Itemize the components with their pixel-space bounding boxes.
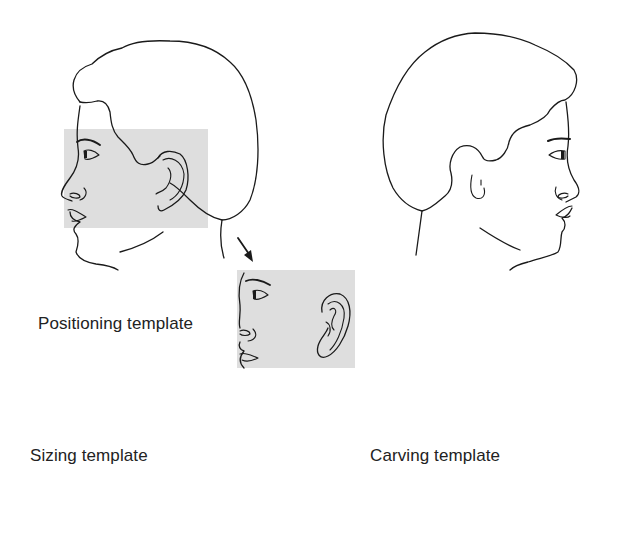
- left-head-profile: [61, 41, 258, 270]
- positioning-template-label: Positioning template: [38, 314, 193, 334]
- left-eye-pupil: [84, 151, 87, 158]
- arrow-head: [244, 250, 253, 262]
- right-jawline: [480, 228, 520, 250]
- left-neck-back: [221, 220, 224, 258]
- right-eye-pupil: [561, 151, 564, 159]
- positioning-template: [237, 270, 355, 368]
- right-face-profile: [510, 102, 579, 270]
- right-eyebrow: [548, 138, 570, 141]
- right-neck-back: [416, 211, 422, 255]
- right-head-profile: [383, 33, 579, 270]
- positioning-template-panel: [237, 270, 355, 368]
- left-head-shaded-region: [64, 129, 208, 228]
- sizing-template-label: Sizing template: [30, 446, 148, 466]
- arrow-to-positioning: [238, 238, 253, 262]
- positioning-eye-pupil: [253, 291, 256, 299]
- right-nostril: [558, 193, 568, 198]
- right-head-hair-outline: [383, 33, 576, 211]
- right-microtia-ear-remnant: [471, 175, 485, 199]
- carving-template-label: Carving template: [370, 446, 500, 466]
- left-jawline: [120, 232, 163, 252]
